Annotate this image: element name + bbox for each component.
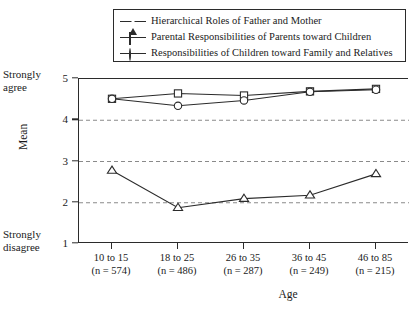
x-tick-label: 46 to 85(n = 215) bbox=[333, 252, 417, 277]
circle-data-point-marker bbox=[240, 97, 247, 104]
y-tick-label: 2 bbox=[54, 196, 68, 208]
circle-data-point-marker bbox=[174, 102, 181, 109]
legend-item-children-responsibilities: Responsibilities of Children toward Fami… bbox=[120, 45, 405, 61]
x-axis-title: Age bbox=[0, 288, 420, 300]
circle-marker-icon bbox=[120, 47, 146, 59]
circle-data-point-marker bbox=[108, 95, 115, 102]
x-axis-title-text: Age bbox=[278, 288, 297, 300]
plot-area bbox=[78, 78, 408, 243]
x-tick-mark bbox=[375, 243, 376, 249]
x-tick-label-category: 46 to 85 bbox=[333, 252, 417, 265]
legend-label: Responsibilities of Children toward Fami… bbox=[151, 47, 392, 59]
circle-data-point-marker bbox=[306, 88, 313, 95]
square-marker-icon bbox=[120, 31, 146, 43]
legend-item-hierarchical-roles: Hierarchical Roles of Father and Mother bbox=[120, 13, 405, 29]
triangle-data-point-marker bbox=[371, 169, 380, 176]
x-tick-mark bbox=[177, 243, 178, 249]
x-tick-mark bbox=[111, 243, 112, 249]
chart-legend: Hierarchical Roles of Father and Mother … bbox=[113, 9, 406, 62]
y-tick-label: 3 bbox=[54, 155, 68, 167]
triangle-marker-icon bbox=[120, 15, 146, 27]
y-axis-title: Mean bbox=[17, 124, 29, 150]
series-canvas bbox=[79, 79, 409, 244]
y-tick-label: 4 bbox=[54, 113, 68, 125]
x-tick-label-sample-size: (n = 215) bbox=[333, 265, 417, 278]
chart-figure: Hierarchical Roles of Father and Mother … bbox=[0, 0, 420, 317]
y-tick-label: 1 bbox=[54, 237, 68, 249]
legend-label: Hierarchical Roles of Father and Mother bbox=[151, 15, 322, 27]
series-line bbox=[112, 171, 376, 208]
square-data-point-marker bbox=[174, 90, 181, 97]
legend-item-parental-responsibilities: Parental Responsibilities of Parents tow… bbox=[120, 29, 405, 45]
triangle-data-point-marker bbox=[107, 166, 116, 173]
y-tick-label: 5 bbox=[54, 72, 68, 84]
triangle-data-point-marker bbox=[239, 194, 248, 201]
legend-label: Parental Responsibilities of Parents tow… bbox=[151, 31, 371, 43]
x-tick-mark bbox=[309, 243, 310, 249]
x-tick-mark bbox=[243, 243, 244, 249]
circle-data-point-marker bbox=[372, 86, 379, 93]
